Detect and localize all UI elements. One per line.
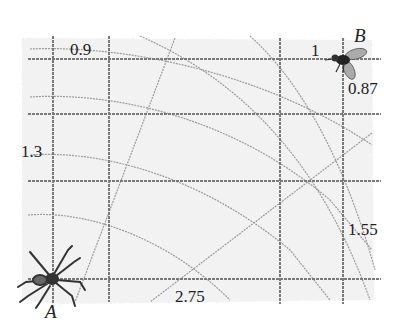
web-grid-graphic: [0, 0, 405, 331]
label-left-segment: 1.3: [21, 143, 42, 160]
spider-web-diagram: 0.9 1 0.87 1.3 1.55 2.75 A B: [0, 0, 405, 331]
label-bottom-segment: 2.75: [175, 288, 205, 305]
label-right-upper-segment: 0.87: [348, 80, 378, 97]
label-right-lower-segment: 1.55: [348, 221, 378, 238]
label-top-segment: 0.9: [70, 41, 91, 58]
label-top-right-segment: 1: [311, 42, 320, 59]
point-label-b: B: [354, 26, 366, 45]
point-label-a: A: [45, 302, 57, 321]
